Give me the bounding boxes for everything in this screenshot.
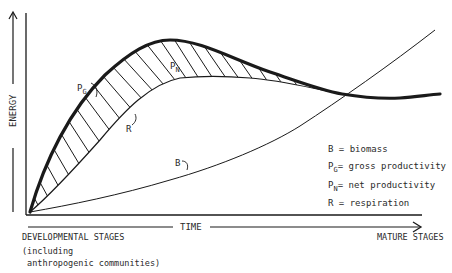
developmental-note-line1: (including — [22, 246, 73, 256]
svg-text:R: R — [126, 124, 132, 134]
x-axis-label: TIME — [180, 222, 202, 232]
developmental-stages-label: DEVELOPMENTAL STAGES — [22, 232, 124, 242]
legend-item-respiration: R = respiration — [328, 198, 409, 208]
y-axis-label: ENERGY — [8, 94, 18, 127]
svg-text:PN: PN — [170, 61, 180, 74]
developmental-note-line2: anthropogenic communities) — [22, 258, 160, 268]
mature-stages-label: MATURE STAGES — [377, 232, 444, 242]
r-curve-label: R — [126, 114, 136, 134]
svg-text:B: B — [175, 158, 180, 168]
svg-text:PG: PG — [77, 83, 87, 96]
curve-labels: PG PN R B — [77, 61, 188, 170]
energy-arrow: ENERGY — [8, 12, 18, 212]
legend: B = biomass PG= gross productivity PN= n… — [328, 144, 447, 208]
b-curve-label: B — [175, 158, 188, 170]
stage-labels: DEVELOPMENTAL STAGES (including anthropo… — [22, 232, 444, 268]
legend-item-net-productivity: PN= net productivity — [328, 180, 436, 193]
time-arrow: TIME — [28, 222, 421, 232]
r-curve — [30, 77, 342, 213]
succession-energy-diagram: ENERGY TIME — [0, 0, 452, 273]
legend-item-gross-productivity: PG= gross productivity — [328, 161, 447, 174]
pn-curve-label: PN — [170, 61, 180, 74]
legend-item-biomass: B = biomass — [328, 144, 388, 154]
pn-hatched-area — [30, 36, 334, 220]
